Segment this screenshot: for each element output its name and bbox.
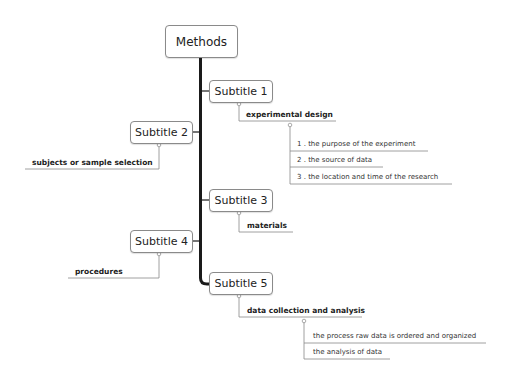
subtitle-5-node[interactable]: Subtitle 5	[209, 272, 273, 295]
subtitle-4-label: Subtitle 4	[135, 235, 188, 248]
list-item[interactable]: 1 . the purpose of the experiment	[297, 140, 415, 148]
subtitle-4-node[interactable]: Subtitle 4	[130, 230, 193, 253]
root-label: Methods	[176, 35, 227, 49]
list-item[interactable]: 3 . the location and time of the researc…	[297, 173, 438, 181]
list-item[interactable]: the process raw data is ordered and orga…	[313, 332, 476, 340]
subtitle-1-node[interactable]: Subtitle 1	[209, 80, 273, 103]
subtitle-2-node[interactable]: Subtitle 2	[130, 121, 193, 144]
experimental-design-label[interactable]: experimental design	[246, 110, 333, 119]
subtitle-3-label: Subtitle 3	[215, 194, 268, 207]
subtitle-1-label: Subtitle 1	[215, 85, 268, 98]
subtitle-5-label: Subtitle 5	[215, 277, 268, 290]
list-item[interactable]: the analysis of data	[313, 348, 382, 356]
root-node-methods[interactable]: Methods	[165, 25, 238, 58]
subtitle-3-node[interactable]: Subtitle 3	[209, 189, 273, 212]
subtitle-2-label: Subtitle 2	[135, 126, 188, 139]
subjects-selection-label[interactable]: subjects or sample selection	[32, 158, 153, 167]
materials-label[interactable]: materials	[247, 221, 287, 230]
procedures-label[interactable]: procedures	[75, 267, 123, 276]
data-collection-label[interactable]: data collection and analysis	[247, 306, 365, 315]
list-item[interactable]: 2 . the source of data	[297, 156, 372, 164]
